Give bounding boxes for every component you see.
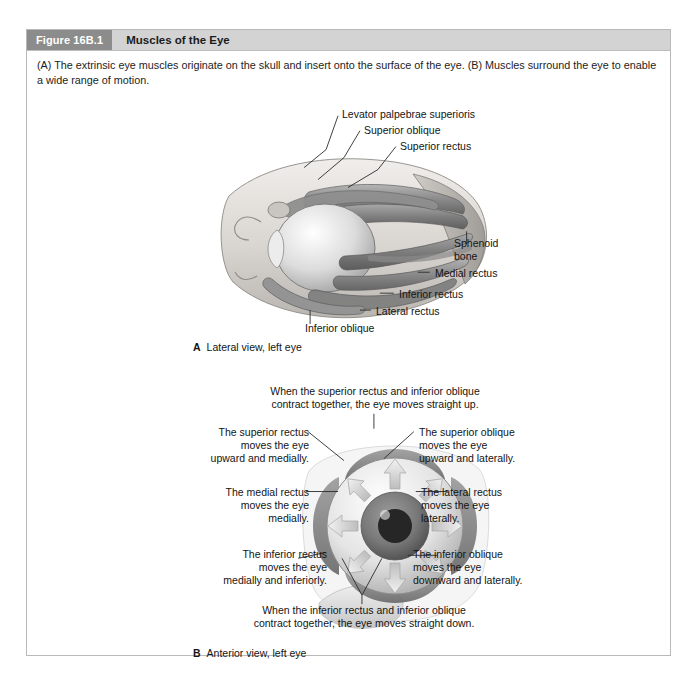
corneal-highlight <box>380 510 390 520</box>
label-sphenoid-bone: Sphenoid bone <box>454 237 498 263</box>
label-b-superior-rectus: The superior rectus moves the eye upward… <box>167 426 309 465</box>
label-b-inferior-rectus: The inferior rectus moves the eye medial… <box>159 548 327 587</box>
panel-a-letter: A <box>193 341 201 353</box>
label-b-top-note: When the superior rectus and inferior ob… <box>245 385 505 411</box>
label-levator-palpebrae-superioris: Levator palpebrae superioris <box>342 108 475 121</box>
figure-caption: (A) The extrinsic eye muscles originate … <box>37 58 657 87</box>
label-lateral-rectus-a: Lateral rectus <box>376 305 440 318</box>
panel-a-caption-text: Lateral view, left eye <box>207 341 302 353</box>
label-b-inferior-oblique: The inferior oblique moves the eye downw… <box>413 548 583 587</box>
panel-a-caption: ALateral view, left eye <box>193 341 302 353</box>
trochlea-pulley <box>268 202 290 218</box>
figure-frame: Figure 16B.1 Muscles of the Eye (A) The … <box>26 29 671 656</box>
label-inferior-oblique-a: Inferior oblique <box>305 322 374 335</box>
label-medial-rectus-a: Medial rectus <box>435 267 497 280</box>
label-b-lateral-rectus: The lateral rectus moves the eye lateral… <box>421 486 581 525</box>
label-b-superior-oblique: The superior oblique moves the eye upwar… <box>419 426 579 465</box>
panel-b-caption: BAnterior view, left eye <box>193 647 306 659</box>
label-superior-rectus-a: Superior rectus <box>400 140 471 153</box>
figure-title: Muscles of the Eye <box>112 30 230 50</box>
panel-b-caption-text: Anterior view, left eye <box>207 647 307 659</box>
figure-container: Figure 16B.1 Muscles of the Eye (A) The … <box>0 0 696 682</box>
label-inferior-rectus-a: Inferior rectus <box>399 288 463 301</box>
label-superior-oblique-a: Superior oblique <box>364 124 440 137</box>
figure-header: Figure 16B.1 Muscles of the Eye <box>27 30 670 51</box>
figure-number-badge: Figure 16B.1 <box>27 30 112 50</box>
panel-b-letter: B <box>193 647 201 659</box>
label-b-medial-rectus: The medial rectus moves the eye medially… <box>165 486 309 525</box>
label-b-bottom-note: When the inferior rectus and inferior ob… <box>233 604 495 630</box>
